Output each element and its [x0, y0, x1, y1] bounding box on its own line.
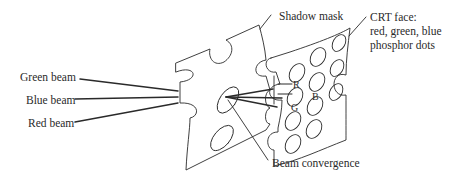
crt-diagram: R B G Green beam Blue beam Red beam Shad…	[0, 0, 452, 180]
dot-label-blue: B	[312, 91, 319, 102]
green-beam-line	[80, 79, 178, 91]
red-beam-line	[75, 103, 178, 122]
label-red-beam: Red beam	[28, 117, 74, 130]
leader-beam-convergence	[228, 100, 268, 160]
blue-beam-line	[75, 97, 178, 99]
label-blue-beam: Blue beam	[26, 94, 76, 107]
label-beam-convergence: Beam convergence	[272, 157, 360, 170]
dot-label-red: R	[293, 79, 300, 90]
label-crt-face-line3: phosphor dots	[370, 38, 442, 52]
label-crt-face-line2: red, green, blue	[370, 24, 442, 38]
leader-shadow-mask	[260, 15, 271, 29]
label-green-beam: Green beam	[20, 71, 76, 84]
crt-face-panel	[266, 28, 350, 166]
leader-crt-face	[349, 17, 366, 36]
label-crt-face: CRT face: red, green, blue phosphor dots	[370, 10, 442, 52]
label-crt-face-line1: CRT face:	[370, 10, 442, 24]
label-shadow-mask: Shadow mask	[279, 10, 343, 23]
mask-hole-lower	[206, 121, 238, 154]
dot-label-green: G	[291, 102, 298, 113]
incoming-beams	[75, 79, 178, 122]
